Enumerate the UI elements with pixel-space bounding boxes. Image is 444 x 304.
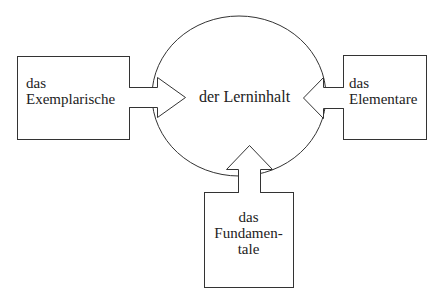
left-label: das Exemplarische	[26, 75, 115, 107]
didactic-diagram	[0, 0, 444, 304]
bottom-label-line: tale	[204, 241, 293, 257]
right-label: das Elementare	[349, 75, 417, 107]
bottom-label-line: das	[204, 209, 293, 225]
center-label: der Lerninhalt	[199, 89, 290, 105]
left-label-line: Exemplarische	[26, 91, 115, 107]
bottom-label-line: Fundamen-	[204, 225, 293, 241]
bottom-label: das Fundamen- tale	[204, 209, 293, 257]
right-label-line: Elementare	[349, 91, 417, 107]
left-label-line: das	[26, 75, 115, 91]
right-label-line: das	[349, 75, 417, 91]
